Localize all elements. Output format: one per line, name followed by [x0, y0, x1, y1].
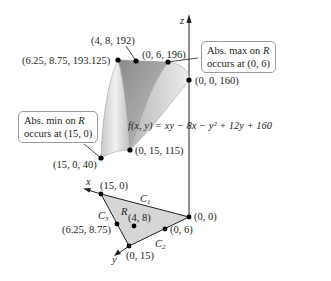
surface: [101, 60, 189, 158]
abs-max-callout: Abs. max on R occurs at (0, 6): [201, 41, 276, 73]
function-label: f(x, y) = xy − 8x − y² + 12y + 160: [128, 120, 272, 132]
min-leader: [84, 144, 101, 158]
z-axis: [187, 14, 192, 217]
label-0-0-160: (0, 0, 160): [195, 75, 239, 87]
abs-min-var: R: [78, 115, 84, 126]
label-r-0-6: (0, 6): [170, 224, 193, 236]
x-axis-label: x: [86, 176, 91, 188]
label-0-6-196: (0, 6, 196): [142, 49, 186, 61]
z-axis-label: z: [180, 15, 184, 27]
abs-min-callout: Abs. min on R occurs at (15, 0): [18, 111, 98, 143]
c3-subscript: 3: [105, 215, 109, 223]
abs-min-line1: Abs. min on: [24, 115, 78, 126]
label-r-6.25-8.75: (6.25, 8.75): [62, 224, 111, 236]
curve-c1-label: C1: [140, 193, 151, 208]
label-6.25-8.75-193.125: (6.25, 8.75, 193.125): [22, 55, 110, 67]
abs-max-line1: Abs. max on: [207, 45, 263, 56]
label-0-15-115: (0, 15, 115): [135, 145, 184, 157]
label-r-4-8: (4, 8): [128, 212, 151, 224]
point-4-8-leader: [126, 46, 136, 61]
label-4-8-192: (4, 8, 192): [91, 35, 135, 47]
c3-letter: C: [98, 210, 105, 221]
c2-subscript: 2: [162, 243, 166, 251]
c1-letter: C: [140, 193, 147, 204]
label-r-0-15: (0, 15): [126, 250, 154, 262]
abs-max-line2: occurs at (0, 6): [207, 58, 270, 69]
region-r-label: R: [121, 206, 127, 218]
curve-c2-label: C2: [155, 238, 166, 253]
abs-max-var: R: [263, 45, 269, 56]
label-r-0-0: (0, 0): [194, 211, 217, 223]
c1-subscript: 1: [147, 198, 151, 206]
label-15-0-40: (15, 0, 40): [53, 159, 97, 171]
abs-min-line2: occurs at (15, 0): [24, 128, 92, 139]
label-r-15-0: (15, 0): [100, 180, 128, 192]
curve-c3-label: C3: [98, 210, 109, 225]
y-axis-label: y: [112, 254, 117, 266]
c2-letter: C: [155, 238, 162, 249]
